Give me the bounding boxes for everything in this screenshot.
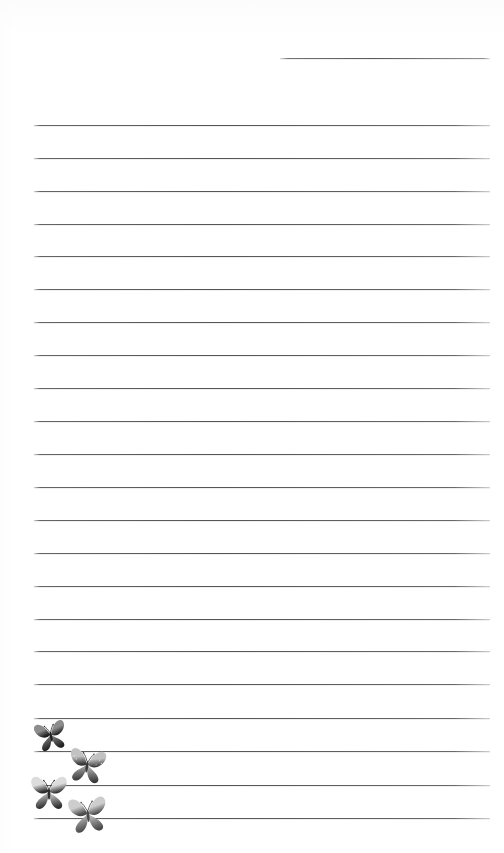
rule-line (34, 158, 490, 159)
rule-line (34, 322, 490, 323)
rule-line (34, 355, 490, 356)
rule-line (34, 125, 490, 126)
rule-line (34, 289, 490, 290)
rule-line (34, 586, 490, 587)
rule-line (34, 388, 490, 389)
rule-line (34, 520, 490, 521)
notebook-page (0, 0, 504, 853)
rule-line (34, 256, 490, 257)
rule-line (34, 487, 490, 488)
rule-line (34, 224, 490, 225)
rule-line (34, 191, 490, 192)
header-rule-line (280, 58, 490, 59)
rule-line (34, 454, 490, 455)
rule-line (34, 718, 490, 719)
rule-line (34, 421, 490, 422)
rule-line (34, 684, 490, 685)
paper-texture-overlay (0, 0, 504, 853)
rule-line (34, 553, 490, 554)
butterfly-icon (63, 740, 111, 791)
rule-line (34, 651, 490, 652)
butterfly-icon (64, 791, 112, 839)
butterfly-icon (28, 772, 70, 814)
rule-line (34, 619, 490, 620)
